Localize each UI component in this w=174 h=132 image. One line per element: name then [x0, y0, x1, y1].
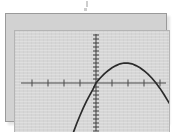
screenshot-root	[0, 0, 174, 132]
graph-plot	[15, 31, 170, 132]
calculator-screen[interactable]	[14, 30, 170, 132]
scan-speck-2	[84, 8, 87, 11]
parabola-curve	[74, 63, 170, 132]
calculator-frame	[5, 13, 167, 122]
scan-speck-1	[86, 1, 88, 7]
